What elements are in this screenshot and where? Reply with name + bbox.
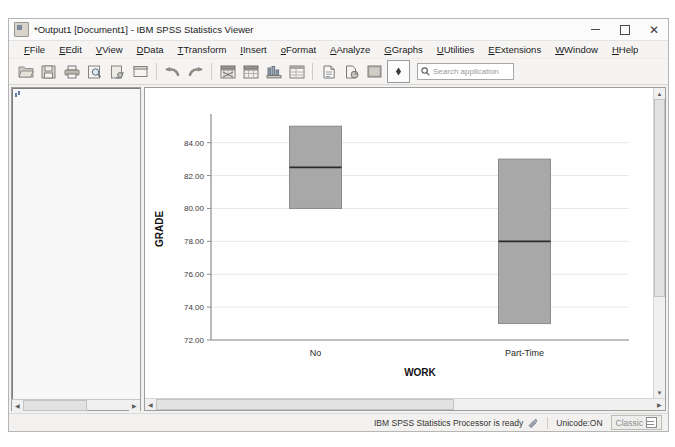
ytick-label: 82.00 [184, 172, 205, 181]
ytick-label: 74.00 [184, 303, 205, 312]
menu-help[interactable]: HHelp [605, 41, 645, 58]
outline-node-boxplot[interactable]: Boxplot [15, 245, 140, 256]
outline-pane: -Output-ExploreTitleNotes-WORKTitleCase … [11, 87, 141, 411]
toolbar-separator-1 [156, 63, 157, 80]
minimize-icon [591, 29, 600, 30]
scroll-down-arrow[interactable]: ▼ [654, 387, 665, 398]
menu-format[interactable]: oFormat [274, 41, 323, 58]
dialog-recall-icon[interactable] [130, 61, 151, 82]
menu-window[interactable]: WWindow [548, 41, 605, 58]
insert-table-icon[interactable] [286, 61, 307, 82]
insert-chart-icon[interactable] [263, 61, 284, 82]
chart-node-icon [12, 88, 140, 399]
toolbar: Search application [9, 59, 668, 85]
output-canvas[interactable]: 72.0074.0076.0078.0080.0082.0084.00NoPar… [145, 88, 653, 398]
menu-transform[interactable]: TTransform [171, 41, 234, 58]
insert-text-icon[interactable] [318, 61, 339, 82]
redo-icon[interactable] [185, 61, 206, 82]
menu-file-label: File [30, 44, 45, 55]
ytick-label: 78.00 [184, 237, 205, 246]
viewer-hscrollbar[interactable]: ◀ ▶ [145, 398, 665, 410]
toolbar-separator-3 [312, 63, 313, 80]
promote-icon[interactable] [387, 60, 410, 83]
goto-case-icon[interactable] [240, 61, 261, 82]
scroll-up-arrow[interactable]: ▲ [654, 88, 665, 99]
viewer-vscrollbar[interactable]: ▲ ▼ [653, 88, 665, 398]
menu-view-label: View [102, 44, 122, 55]
boxplot-chart[interactable]: 72.0074.0076.0078.0080.0082.0084.00NoPar… [145, 88, 653, 398]
menu-utilities-label: Utilities [444, 44, 475, 55]
ytick-label: 84.00 [184, 139, 205, 148]
x-axis-title: WORK [404, 367, 436, 378]
viewer-vscroll-thumb[interactable] [654, 99, 665, 297]
unicode-status: Unicode:ON [556, 418, 602, 428]
viewer-row: 72.0074.0076.0078.0080.0082.0084.00NoPar… [145, 88, 665, 398]
menu-data[interactable]: DData [130, 41, 171, 58]
y-axis-title: GRADE [154, 211, 165, 247]
goto-data-icon[interactable] [217, 61, 238, 82]
outline-hscrollbar[interactable]: ◀ ▶ [12, 399, 140, 410]
close-button[interactable]: ✕ [639, 19, 668, 40]
menu-analyze-label: Analyze [336, 44, 370, 55]
status-bar: IBM SPSS Statistics Processor is ready U… [9, 413, 668, 431]
outline-hscroll-thumb[interactable] [23, 400, 87, 411]
menu-graphs[interactable]: GGraphs [377, 41, 430, 58]
menu-file[interactable]: FFile [17, 41, 52, 58]
spss-viewer-icon [14, 22, 29, 37]
show-hide-icon[interactable] [364, 61, 385, 82]
insert-object-icon[interactable] [341, 61, 362, 82]
boxplot-svg: 72.0074.0076.0078.0080.0082.0084.00NoPar… [145, 88, 653, 398]
boxplot-box-part-time[interactable] [499, 159, 551, 323]
processor-status-icon [528, 417, 539, 428]
close-icon: ✕ [649, 23, 659, 37]
viewer-pane: 72.0074.0076.0078.0080.0082.0084.00NoPar… [144, 87, 666, 411]
search-input[interactable]: Search application [417, 63, 514, 80]
viewer-scroll-left-arrow[interactable]: ◀ [145, 399, 156, 410]
menu-bar: FFile EEdit VView DData TTransform IInse… [9, 41, 668, 59]
menu-edit-label: Edit [65, 44, 81, 55]
window-controls: ✕ [581, 19, 668, 40]
menu-transform-label: Transform [183, 44, 226, 55]
spss-viewer-window: *Output1 [Document1] - IBM SPSS Statisti… [8, 18, 669, 432]
classic-grid-icon [646, 417, 657, 428]
menu-help-label: Help [619, 44, 639, 55]
mode-indicator[interactable]: Classic [611, 415, 662, 430]
toolbar-separator-2 [211, 63, 212, 80]
ytick-label: 72.00 [184, 336, 205, 345]
open-file-icon[interactable] [15, 61, 36, 82]
menu-analyze[interactable]: AAnalyze [323, 41, 377, 58]
menu-insert[interactable]: IInsert [233, 41, 273, 58]
boxplot-box-no[interactable] [290, 126, 342, 208]
print-preview-icon[interactable] [84, 61, 105, 82]
undo-icon[interactable] [162, 61, 183, 82]
window-title: *Output1 [Document1] - IBM SPSS Statisti… [34, 24, 253, 35]
print-icon[interactable] [61, 61, 82, 82]
viewer-hscroll-thumb[interactable] [156, 399, 454, 410]
title-bar: *Output1 [Document1] - IBM SPSS Statisti… [9, 19, 668, 41]
outline-scroll-left-arrow[interactable]: ◀ [12, 400, 23, 411]
menu-window-label: Window [564, 44, 598, 55]
menu-insert-label: Insert [243, 44, 267, 55]
xtick-label: Part-Time [505, 348, 544, 358]
processor-status: IBM SPSS Statistics Processor is ready [374, 418, 523, 428]
search-placeholder: Search application [433, 67, 499, 76]
menu-utilities[interactable]: UUtilities [430, 41, 482, 58]
save-icon[interactable] [38, 61, 59, 82]
status-separator [547, 417, 548, 429]
maximize-icon [620, 25, 630, 35]
search-icon [421, 67, 430, 76]
ytick-label: 80.00 [184, 204, 205, 213]
menu-edit[interactable]: EEdit [52, 41, 89, 58]
output-tree[interactable]: -Output-ExploreTitleNotes-WORKTitleCase … [12, 88, 140, 399]
export-icon[interactable] [107, 61, 128, 82]
maximize-button[interactable] [610, 19, 639, 40]
menu-data-label: Data [143, 44, 163, 55]
viewer-body: -Output-ExploreTitleNotes-WORKTitleCase … [9, 85, 668, 413]
menu-extensions[interactable]: EExtensions [481, 41, 548, 58]
minimize-button[interactable] [581, 19, 610, 40]
menu-format-label: Format [286, 44, 316, 55]
outline-scroll-right-arrow[interactable]: ▶ [129, 400, 140, 411]
menu-view[interactable]: VView [89, 41, 130, 58]
menu-extensions-label: Extensions [495, 44, 541, 55]
viewer-scroll-right-arrow[interactable]: ▶ [654, 399, 665, 410]
